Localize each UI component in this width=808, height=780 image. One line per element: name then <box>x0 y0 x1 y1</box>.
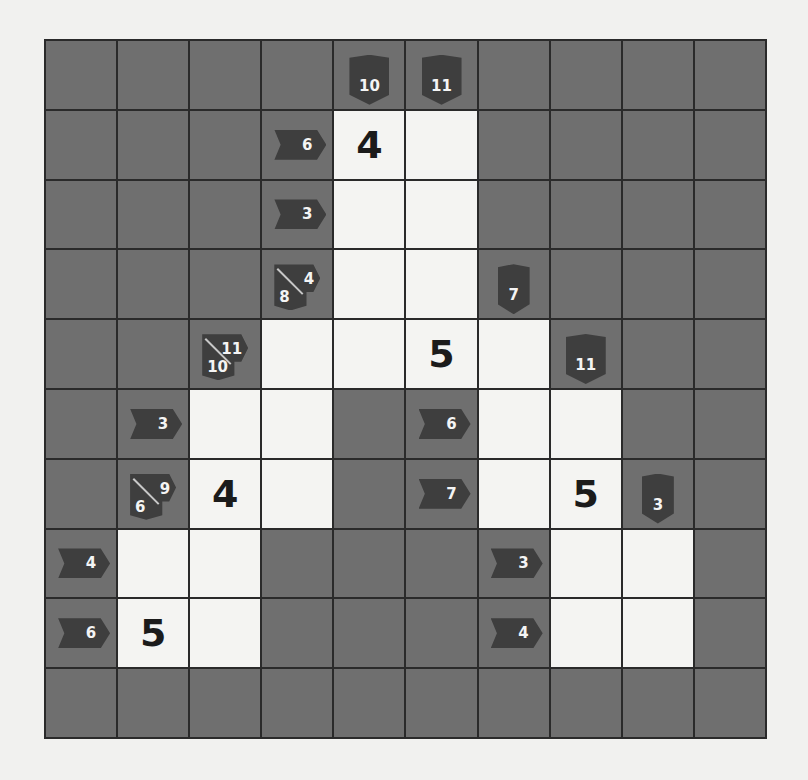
right-arrow-clue: 3 <box>491 548 543 578</box>
input-cell-r7c2[interactable] <box>190 530 260 598</box>
block-cell <box>190 669 260 737</box>
block-cell <box>695 599 765 667</box>
given-digit: 5 <box>118 599 188 667</box>
input-cell-r8c8[interactable] <box>623 599 693 667</box>
input-cell-r2c5[interactable] <box>406 181 476 249</box>
block-cell <box>334 390 404 458</box>
clue-cell-r3c3: 4 8 <box>262 250 332 318</box>
input-cell-r8c7[interactable] <box>551 599 621 667</box>
input-cell-r7c7[interactable] <box>551 530 621 598</box>
block-cell <box>334 599 404 667</box>
down-arrow-clue: 11 <box>422 55 462 105</box>
block-cell <box>551 669 621 737</box>
input-cell-r3c5[interactable] <box>406 250 476 318</box>
block-cell <box>334 460 404 528</box>
input-cell-r3c4[interactable] <box>334 250 404 318</box>
input-cell-r4c6[interactable] <box>479 320 549 388</box>
block-cell <box>479 181 549 249</box>
down-sum: 8 <box>279 288 289 306</box>
input-cell-r5c2[interactable] <box>190 390 260 458</box>
block-cell <box>479 41 549 109</box>
down-arrow-clue: 10 <box>349 55 389 105</box>
given-digit: 5 <box>406 320 476 388</box>
block-cell <box>262 530 332 598</box>
input-cell-r6c7[interactable]: 5 <box>551 460 621 528</box>
block-cell <box>118 669 188 737</box>
block-cell <box>406 530 476 598</box>
input-cell-r8c1[interactable]: 5 <box>118 599 188 667</box>
block-cell <box>46 320 116 388</box>
block-cell <box>46 111 116 179</box>
right-arrow-clue: 3 <box>274 199 326 229</box>
right-sum: 4 <box>304 270 314 288</box>
input-cell-r5c7[interactable] <box>551 390 621 458</box>
block-cell <box>262 41 332 109</box>
block-cell <box>190 111 260 179</box>
block-cell <box>190 250 260 318</box>
input-cell-r6c6[interactable] <box>479 460 549 528</box>
right-arrow-clue: 7 <box>419 479 471 509</box>
block-cell <box>695 41 765 109</box>
right-arrow-clue: 6 <box>58 618 110 648</box>
input-cell-r6c3[interactable] <box>262 460 332 528</box>
block-cell <box>118 181 188 249</box>
block-cell <box>406 669 476 737</box>
right-sum: 9 <box>160 480 170 498</box>
block-cell <box>551 111 621 179</box>
block-cell <box>623 181 693 249</box>
input-cell-r5c6[interactable] <box>479 390 549 458</box>
right-arrow-clue: 6 <box>274 130 326 160</box>
block-cell <box>406 599 476 667</box>
input-cell-r1c4[interactable]: 4 <box>334 111 404 179</box>
clue-cell-r7c0: 4 <box>46 530 116 598</box>
block-cell <box>118 41 188 109</box>
input-cell-r1c5[interactable] <box>406 111 476 179</box>
block-cell <box>46 41 116 109</box>
clue-cell-r4c7: 11 <box>551 320 621 388</box>
clue-cell-r4c2: 11 10 <box>190 320 260 388</box>
block-cell <box>623 111 693 179</box>
block-cell <box>262 669 332 737</box>
input-cell-r4c3[interactable] <box>262 320 332 388</box>
input-cell-r8c2[interactable] <box>190 599 260 667</box>
right-arrow-clue: 3 <box>130 409 182 439</box>
clue-cell-r5c1: 3 <box>118 390 188 458</box>
block-cell <box>551 41 621 109</box>
clue-cell-r2c3: 3 <box>262 181 332 249</box>
block-cell <box>695 111 765 179</box>
split-clue: 9 6 <box>130 474 176 520</box>
clue-cell-r8c0: 6 <box>46 599 116 667</box>
right-arrow-clue: 6 <box>419 409 471 439</box>
block-cell <box>190 181 260 249</box>
down-sum: 10 <box>207 358 228 376</box>
clue-cell-r7c6: 3 <box>479 530 549 598</box>
block-cell <box>334 530 404 598</box>
block-cell <box>46 460 116 528</box>
clue-cell-r6c1: 9 6 <box>118 460 188 528</box>
given-digit: 4 <box>334 111 404 179</box>
block-cell <box>623 320 693 388</box>
block-cell <box>623 41 693 109</box>
down-sum: 6 <box>135 498 145 516</box>
block-cell <box>118 111 188 179</box>
right-sum: 11 <box>221 340 242 358</box>
clue-cell-r8c6: 4 <box>479 599 549 667</box>
split-clue: 4 8 <box>274 264 320 310</box>
down-arrow-clue: 7 <box>498 264 530 314</box>
input-cell-r4c4[interactable] <box>334 320 404 388</box>
block-cell <box>623 250 693 318</box>
right-arrow-clue: 4 <box>491 618 543 648</box>
block-cell <box>46 181 116 249</box>
input-cell-r4c5[interactable]: 5 <box>406 320 476 388</box>
input-cell-r6c2[interactable]: 4 <box>190 460 260 528</box>
input-cell-r5c3[interactable] <box>262 390 332 458</box>
clue-cell-r5c5: 6 <box>406 390 476 458</box>
input-cell-r7c1[interactable] <box>118 530 188 598</box>
right-arrow-clue: 4 <box>58 548 110 578</box>
block-cell <box>695 530 765 598</box>
block-cell <box>46 669 116 737</box>
input-cell-r7c8[interactable] <box>623 530 693 598</box>
input-cell-r2c4[interactable] <box>334 181 404 249</box>
block-cell <box>334 669 404 737</box>
clue-cell-r6c5: 7 <box>406 460 476 528</box>
